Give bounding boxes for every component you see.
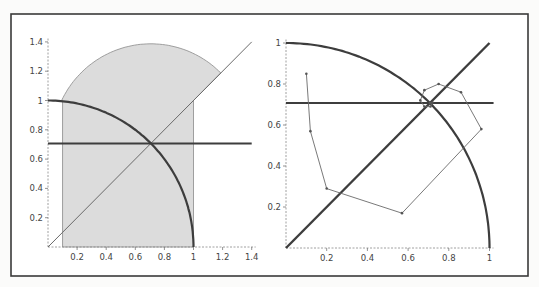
path-point [431,101,434,104]
x-tick-label: 1.2 [216,252,230,262]
path-point [423,105,426,108]
y-tick-label: 1.4 [29,37,43,47]
x-tick-label: 0.6 [401,253,415,263]
x-tick-label: 0.2 [70,252,84,262]
y-tick-label: 0.2 [29,213,43,223]
y-tick-label: 1 [276,38,281,48]
path-point [325,187,328,190]
path-point [423,89,426,92]
x-tick-label: 0.6 [129,252,143,262]
path-point [429,102,432,105]
x-tick-label: 0.2 [320,253,334,263]
x-tick-label: 0.8 [158,252,172,262]
path-point [429,105,432,108]
y-tick-label: 0.8 [267,79,281,89]
y-tick-label: 0.2 [267,202,281,212]
y-tick-label: 0.4 [267,161,281,171]
path-point [401,212,404,215]
path-point [419,99,422,102]
y-tick-label: 0.8 [29,125,43,135]
y-tick-label: 1 [38,96,43,106]
y-tick-label: 0.6 [267,120,281,130]
x-tick-label: 1 [191,252,196,262]
x-tick-label: 1 [487,253,492,263]
path-point [480,128,483,131]
path-point [305,72,308,75]
x-tick-label: 0.8 [442,253,456,263]
path-point [309,130,312,133]
y-tick-label: 0.4 [29,183,43,193]
path-point [460,91,463,94]
path-point [437,83,440,86]
figure: 0.20.40.60.811.21.40.20.40.60.811.21.4 0… [0,0,539,287]
y-tick-label: 1.2 [29,66,43,76]
x-tick-label: 0.4 [361,253,375,263]
x-tick-label: 1.4 [245,252,259,262]
x-tick-label: 0.4 [99,252,113,262]
y-tick-label: 0.6 [29,154,43,164]
